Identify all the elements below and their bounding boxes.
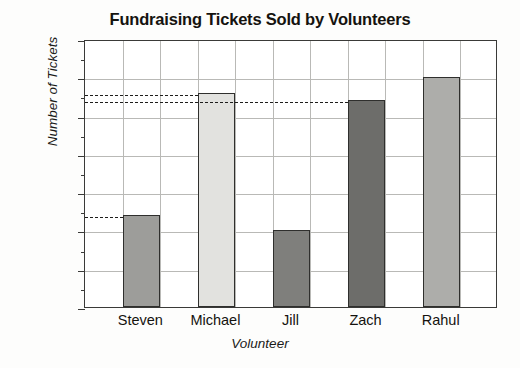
- gridline-vertical: [310, 41, 311, 307]
- x-tick-label-zach: Zach: [349, 312, 381, 328]
- y-tick-mark-minor: [81, 98, 85, 99]
- reference-line-28: [85, 95, 198, 96]
- y-tick-mark-minor: [81, 213, 85, 214]
- x-tick-label-rahul: Rahul: [422, 312, 460, 328]
- chart-title: Fundraising Tickets Sold by Volunteers: [0, 10, 520, 29]
- y-tick-mark: [78, 156, 85, 157]
- gridline-vertical: [160, 41, 161, 307]
- y-tick-mark: [78, 232, 85, 233]
- y-tick-mark: [78, 194, 85, 195]
- bar-rahul[interactable]: [423, 77, 461, 307]
- x-tick-label-michael: Michael: [190, 312, 240, 328]
- gridline-vertical: [460, 41, 461, 307]
- bar-steven[interactable]: [123, 215, 161, 307]
- y-tick-mark: [78, 41, 85, 42]
- bar-michael[interactable]: [198, 93, 236, 307]
- plot-area: [84, 40, 497, 308]
- x-axis-title: Volunteer: [0, 336, 520, 351]
- y-axis-title: Number of Tickets: [45, 12, 60, 172]
- y-tick-mark-minor: [81, 175, 85, 176]
- x-tick-label-steven: Steven: [118, 312, 163, 328]
- y-tick-mark-minor: [81, 60, 85, 61]
- y-tick-mark-minor: [81, 252, 85, 253]
- y-tick-mark: [78, 309, 85, 310]
- gridline-vertical: [385, 41, 386, 307]
- y-tick-mark-minor: [81, 290, 85, 291]
- bar-jill[interactable]: [273, 230, 311, 307]
- bar-zach[interactable]: [348, 100, 386, 307]
- y-tick-mark-minor: [81, 137, 85, 138]
- x-tick-label-jill: Jill: [282, 312, 299, 328]
- y-tick-mark: [78, 79, 85, 80]
- reference-line-12: [85, 217, 123, 218]
- gridline-vertical: [235, 41, 236, 307]
- y-tick-mark: [78, 118, 85, 119]
- y-tick-mark: [78, 271, 85, 272]
- bar-chart: Fundraising Tickets Sold by Volunteers N…: [0, 0, 520, 368]
- reference-line-27: [85, 102, 348, 103]
